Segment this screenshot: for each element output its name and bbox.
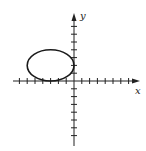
x-axis-label: x (135, 85, 141, 96)
coordinate-plane: y x (0, 0, 146, 151)
ellipse-curve (27, 50, 74, 81)
y-axis-arrow-icon (72, 13, 77, 21)
y-axis-label: y (79, 10, 86, 21)
x-axis-arrow-icon (132, 79, 140, 84)
